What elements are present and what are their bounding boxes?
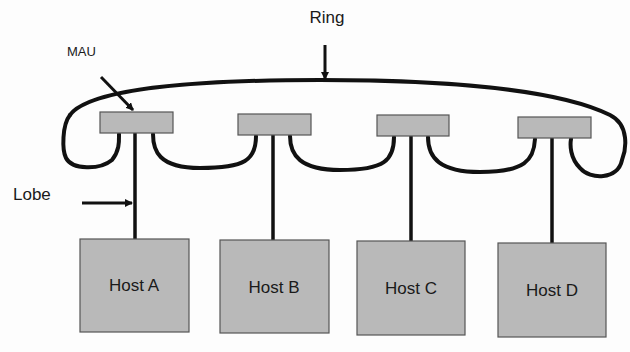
ring-label: Ring [310, 8, 345, 27]
host-b: Host B [220, 240, 329, 333]
token-ring-diagram: Host A Host B Host C Host D Ring MAU Lob… [0, 0, 630, 352]
host-d: Host D [498, 243, 606, 337]
lobe-label: Lobe [13, 185, 51, 204]
host-d-label: Host D [526, 281, 578, 300]
host-c-label: Host C [385, 279, 437, 298]
host-b-label: Host B [248, 278, 299, 297]
mau-label: MAU [67, 44, 96, 59]
lobe-cables [135, 133, 552, 243]
mau-a [100, 112, 173, 133]
mau-b [238, 114, 311, 135]
host-c: Host C [357, 241, 465, 335]
host-a: Host A [80, 239, 189, 332]
host-a-label: Host A [109, 276, 160, 295]
mau-c [377, 115, 449, 136]
mau-d [518, 117, 591, 138]
mau-units [100, 112, 591, 138]
